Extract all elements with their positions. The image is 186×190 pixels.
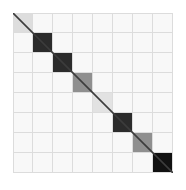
matrix-cell [53, 133, 73, 153]
matrix-cell [33, 113, 53, 133]
matrix-cell [93, 93, 113, 113]
matrix-cell [113, 133, 133, 153]
matrix-cell [13, 33, 33, 53]
matrix-cell [53, 93, 73, 113]
matrix-cell [33, 13, 53, 33]
matrix-cell [33, 153, 53, 173]
matrix-cell [73, 93, 93, 113]
matrix-cell [153, 53, 173, 73]
matrix-cell [153, 33, 173, 53]
matrix-cell [33, 53, 53, 73]
matrix-cell [73, 33, 93, 53]
matrix-cell [93, 73, 113, 93]
matrix-cell [53, 33, 73, 53]
matrix-cell [33, 133, 53, 153]
matrix-cell [113, 13, 133, 33]
matrix-cell [73, 13, 93, 33]
matrix-cell [13, 113, 33, 133]
matrix-cell [73, 73, 93, 93]
matrix-cell [153, 113, 173, 133]
matrix-cell [53, 73, 73, 93]
matrix-cell [13, 153, 33, 173]
matrix-cell [153, 153, 173, 173]
matrix-plot-area [13, 13, 173, 173]
matrix-cell [153, 13, 173, 33]
matrix-cell [133, 153, 153, 173]
matrix-cell [33, 33, 53, 53]
matrix-cell [133, 13, 153, 33]
matrix-cell [93, 53, 113, 73]
matrix-cell [53, 13, 73, 33]
matrix-cell [93, 13, 113, 33]
matrix-cell [153, 133, 173, 153]
matrix-heatmap-figure [0, 0, 186, 190]
matrix-cell [13, 53, 33, 73]
matrix-cell [13, 13, 33, 33]
matrix-cell [113, 53, 133, 73]
matrix-cell [133, 73, 153, 93]
matrix-cell [113, 153, 133, 173]
matrix-cell [93, 153, 113, 173]
matrix-cell [73, 133, 93, 153]
matrix-cell [133, 93, 153, 113]
matrix-cell [13, 93, 33, 113]
matrix-cell [113, 113, 133, 133]
matrix-cell [93, 113, 113, 133]
matrix-cell [113, 93, 133, 113]
matrix-cell [133, 113, 153, 133]
matrix-cell [53, 113, 73, 133]
matrix-cell [153, 73, 173, 93]
matrix-cell [33, 73, 53, 93]
matrix-cell [113, 33, 133, 53]
matrix-cell-grid [13, 13, 173, 173]
matrix-cell [133, 33, 153, 53]
matrix-cell [73, 53, 93, 73]
matrix-cell [13, 73, 33, 93]
matrix-cell [33, 93, 53, 113]
matrix-cell [73, 153, 93, 173]
matrix-cell [133, 53, 153, 73]
matrix-cell [13, 133, 33, 153]
matrix-cell [113, 73, 133, 93]
matrix-cell [93, 133, 113, 153]
matrix-cell [93, 33, 113, 53]
matrix-cell [53, 53, 73, 73]
matrix-cell [133, 133, 153, 153]
matrix-cell [73, 113, 93, 133]
matrix-cell [153, 93, 173, 113]
matrix-cell [53, 153, 73, 173]
